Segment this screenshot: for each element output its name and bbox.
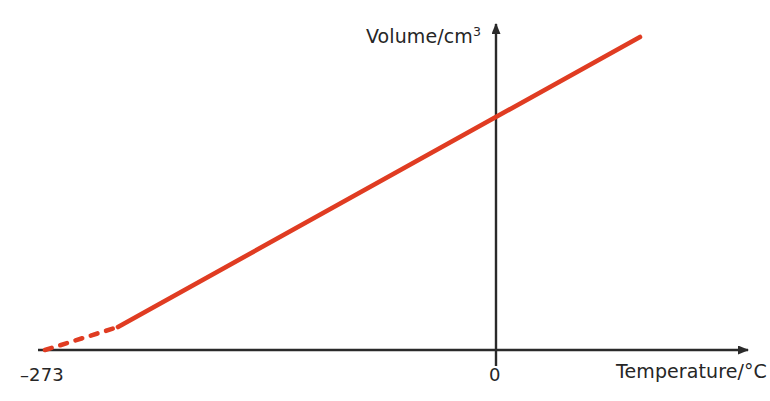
x-tick-label-zero: 0	[489, 364, 501, 385]
y-axis-label: Volume/cm3	[366, 25, 481, 47]
x-tick-label-absolute-zero: –273	[20, 364, 64, 385]
y-axis-label-superscript: 3	[473, 24, 481, 39]
chart-canvas	[0, 0, 770, 401]
extrapolation-dashed-line	[45, 327, 118, 350]
y-axis-label-text: Volume/cm	[366, 25, 473, 47]
x-axis-label: Temperature/°C	[616, 360, 767, 382]
charles-law-chart: Volume/cm3 Temperature/°C –273 0	[0, 0, 770, 401]
volume-temperature-line	[118, 37, 640, 327]
